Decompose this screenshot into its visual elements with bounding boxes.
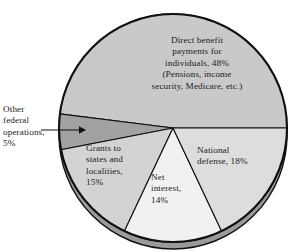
pie-slices: [59, 14, 287, 242]
pie-chart-figure: Direct benefit payments for individuals,…: [0, 0, 296, 252]
pie-chart-canvas: [0, 0, 296, 252]
slice-direct-benefit-payments[interactable]: [60, 14, 287, 128]
